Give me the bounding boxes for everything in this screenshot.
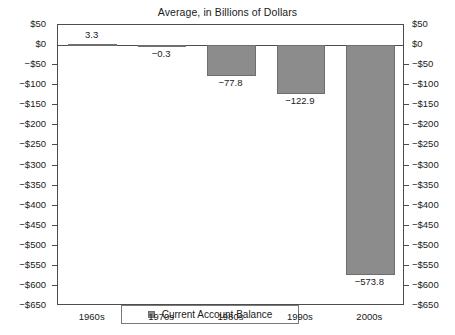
y-axis-right-label: −$350: [412, 180, 439, 190]
y-axis-left-label: −$400: [19, 200, 46, 210]
y-axis-left-label: −$250: [19, 139, 46, 149]
y-axis-left-label: $0: [35, 39, 46, 49]
y-axis-right-label: −$150: [412, 99, 439, 109]
y-axis-left-label: −$50: [25, 59, 46, 69]
y-axis-left-label: −$300: [19, 160, 46, 170]
y-tick-right: [404, 205, 409, 206]
y-axis-right-label: $0: [412, 39, 423, 49]
y-axis-right-label: −$650: [412, 300, 439, 310]
y-axis-left-label: $50: [30, 19, 46, 29]
y-axis-right-label: −$100: [412, 79, 439, 89]
bar-chart: Average, in Billions of Dollars $50$0−$5…: [0, 0, 455, 335]
chart-title: Average, in Billions of Dollars: [0, 6, 455, 18]
y-axis-right-label: −$500: [412, 240, 439, 250]
y-axis-left-label: −$600: [19, 280, 46, 290]
y-axis-right-label: −$250: [412, 139, 439, 149]
bar-1990s: [277, 45, 326, 94]
bar-value-label: 3.3: [57, 30, 126, 40]
x-axis-label-1960s: 1960s: [57, 312, 126, 322]
y-tick-right: [404, 64, 409, 65]
y-axis-right-label: −$600: [412, 280, 439, 290]
x-axis-label-2000s: 2000s: [335, 312, 404, 322]
y-axis-left-label: −$200: [19, 119, 46, 129]
y-axis-left-label: −$550: [19, 260, 46, 270]
x-axis-label-1980s: 1980s: [196, 312, 265, 322]
bar-2000s: [346, 45, 395, 275]
y-axis-left-label: −$650: [19, 300, 46, 310]
y-axis-left-label: −$450: [19, 220, 46, 230]
y-axis-right-label: −$50: [412, 59, 433, 69]
y-tick-right: [404, 84, 409, 85]
plot-area: Current Account Balance: [57, 24, 404, 305]
y-tick-right: [404, 185, 409, 186]
y-axis-left-label: −$100: [19, 79, 46, 89]
y-tick-right: [404, 104, 409, 105]
y-tick-right: [404, 225, 409, 226]
bar-1970s: [138, 45, 187, 47]
bar-value-label: −573.8: [335, 277, 404, 287]
y-tick-right: [404, 124, 409, 125]
bar-1980s: [207, 45, 256, 76]
bar-value-label: −122.9: [265, 96, 334, 106]
y-tick-right: [404, 165, 409, 166]
x-axis-label-1990s: 1990s: [265, 312, 334, 322]
y-tick-right: [404, 265, 409, 266]
y-axis-left-label: −$500: [19, 240, 46, 250]
y-tick-right: [404, 144, 409, 145]
bar-value-label: −77.8: [196, 78, 265, 88]
y-axis-left-label: −$150: [19, 99, 46, 109]
y-tick-right: [404, 245, 409, 246]
y-axis-right-label: −$450: [412, 220, 439, 230]
bar-1960s: [68, 44, 117, 46]
y-axis-left-label: −$350: [19, 180, 46, 190]
y-axis-right-label: −$300: [412, 160, 439, 170]
x-axis-label-1970s: 1970s: [126, 312, 195, 322]
y-axis-right-label: −$400: [412, 200, 439, 210]
y-axis-right-label: −$200: [412, 119, 439, 129]
y-axis-right-label: −$550: [412, 260, 439, 270]
y-axis-right-label: $50: [412, 19, 428, 29]
bar-value-label: −0.3: [126, 49, 195, 59]
y-tick-right: [404, 285, 409, 286]
